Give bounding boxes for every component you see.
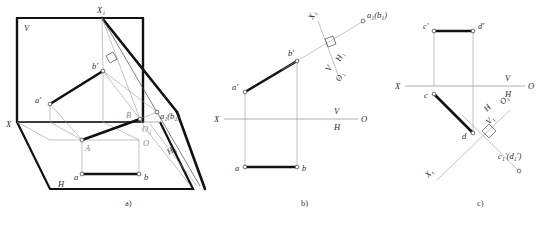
point-b-prime-a: [101, 69, 105, 73]
point-d-low-c: [471, 131, 475, 135]
point-c-low-c: [432, 92, 436, 96]
point-b-low-a: [137, 172, 141, 176]
point-a1b1-b: [361, 19, 365, 23]
plane-h1-thin-edge: [102, 18, 200, 186]
label-b-low-a: b: [144, 172, 148, 182]
point-B-a: [138, 117, 142, 121]
label-v-a: V: [24, 23, 31, 33]
label-x1-c: X₁: [422, 167, 436, 181]
label-a1b1-b: a₁(b₁): [367, 10, 387, 20]
point-b-prime-b: [295, 59, 299, 63]
caption-a: a): [125, 198, 132, 208]
label-h-rot-c: H: [481, 101, 494, 114]
label-x-c: X: [394, 81, 401, 91]
point-b-low-b: [295, 165, 299, 169]
panel-c-group: X O V H c′ d′ c d X₁ H O₁ V₁ c₁′(d₁′): [394, 21, 534, 180]
panel-a-group: X₁ V X H H₁ a′ b′ a b A B a₁(b₁) O₁ O: [5, 5, 205, 189]
label-h-b: H: [333, 122, 341, 132]
label-a-low-a: a: [74, 172, 78, 182]
label-c-prime-c: c′: [423, 21, 429, 31]
label-v-c: V: [505, 73, 512, 83]
segment-cd-low-c: [434, 94, 473, 133]
captions-group: a) b) c): [125, 198, 484, 208]
label-c1d1-c: c₁′(d₁′): [498, 151, 521, 161]
label-o1-a: O₁: [142, 124, 151, 134]
label-a-prime-b: a′: [232, 82, 238, 92]
technical-drawing-svg: X₁ V X H H₁ a′ b′ a b A B a₁(b₁) O₁ O: [0, 0, 550, 230]
projection-frame-top: [82, 140, 139, 174]
label-b-prime-b: b′: [288, 48, 294, 58]
label-d-low-c: d: [462, 131, 467, 141]
label-o-c: O: [528, 81, 534, 91]
point-a-low-a: [80, 172, 84, 176]
label-v-rot-b: V: [323, 62, 335, 73]
label-b-prime-a: b′: [92, 61, 98, 71]
point-a-prime-b: [243, 90, 247, 94]
point-c1d1-c: [517, 169, 521, 173]
axis-x1o1-c: [437, 110, 510, 180]
label-a-low-b: a: [235, 163, 239, 173]
label-c-low-c: c: [424, 90, 428, 100]
point-A-a: [80, 138, 84, 142]
plane-h1-edge-right: [177, 112, 205, 189]
projection-frame-front: [50, 71, 103, 122]
label-h1-b: H₁: [332, 50, 346, 64]
label-x1-b: X₁: [305, 9, 318, 22]
label-v-b: V: [334, 106, 341, 116]
label-a-prime-a: a′: [35, 95, 41, 105]
point-a-prime-a: [48, 102, 52, 106]
label-o1-b: O₁: [333, 70, 346, 83]
label-B-a: B: [126, 110, 131, 120]
axis-x1o1-b-extend: [282, 61, 297, 70]
projector-x1-to-B: [102, 18, 140, 119]
point-a1b1-a: [155, 110, 159, 114]
plane-v-rect: [17, 18, 143, 122]
panel-b-group: X O V H a′ b′ a b a₁(b₁) X₁ H₁ V O₁: [213, 9, 387, 173]
label-b-low-b: b: [302, 163, 306, 173]
label-x-b: X: [213, 114, 220, 124]
axis-x1o1-b: [297, 22, 362, 61]
right-angle-mark-b: [325, 36, 336, 47]
point-c-prime-c: [432, 29, 436, 33]
label-o-a: O: [143, 138, 149, 148]
label-x1-a: X₁: [96, 5, 105, 15]
label-d-prime-c: d′: [478, 21, 484, 31]
figure-canvas: X₁ V X H H₁ a′ b′ a b A B a₁(b₁) O₁ O: [0, 0, 550, 230]
label-o-b: O: [361, 114, 367, 124]
projector-x1-to-b-prime: [102, 18, 103, 71]
label-h-a: H: [57, 179, 65, 189]
segment-ab-front: [50, 71, 103, 104]
projector-H1-line: [150, 124, 197, 186]
point-d-prime-c: [471, 29, 475, 33]
label-x-a: X: [5, 119, 12, 129]
label-a1b1-a: a₁(b₁): [160, 111, 180, 121]
caption-c: c): [477, 198, 484, 208]
plane-h1-edge-upper: [102, 18, 177, 112]
label-A-a: A: [84, 143, 91, 153]
caption-b: b): [301, 198, 308, 208]
label-v1-c: V₁: [483, 114, 496, 127]
plane-v-outline: [17, 18, 143, 122]
point-a-low-b: [243, 165, 247, 169]
